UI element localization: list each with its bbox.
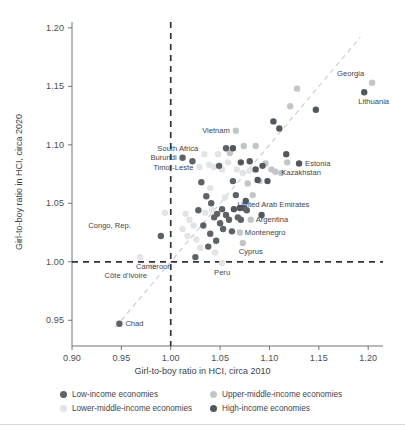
x-tick-label: 1.20 (348, 353, 388, 363)
legend-item[interactable]: Upper-middle-income economies (210, 390, 360, 399)
data-point[interactable] (223, 145, 229, 151)
x-axis-title: Girl-to-boy ratio in HCI, circa 2010 (0, 366, 405, 376)
x-tick-label: 1.15 (299, 353, 339, 363)
point-label: Chad (125, 320, 143, 328)
data-point[interactable] (240, 170, 246, 176)
bottom-divider (0, 424, 405, 425)
data-point[interactable] (240, 240, 246, 246)
data-point[interactable] (231, 206, 237, 212)
data-point[interactable] (179, 226, 185, 232)
x-tick-label: 0.90 (52, 353, 92, 363)
data-point[interactable] (208, 200, 214, 206)
y-tick-label: 1.05 (32, 198, 64, 208)
data-point[interactable] (219, 206, 225, 212)
x-tick-label: 1.00 (151, 353, 191, 363)
point-label: Lithuania (358, 98, 389, 106)
data-point[interactable] (222, 194, 228, 200)
data-point[interactable] (192, 254, 198, 260)
data-point[interactable] (296, 160, 302, 166)
data-point[interactable] (247, 167, 253, 173)
data-point[interactable] (276, 125, 282, 131)
point-label: Georgia (337, 70, 364, 78)
point-label: Burundi (150, 154, 176, 162)
data-point[interactable] (162, 209, 168, 215)
data-point[interactable] (202, 209, 208, 215)
data-point[interactable] (195, 207, 201, 213)
data-point[interactable] (219, 260, 225, 266)
data-point[interactable] (234, 166, 240, 172)
data-point[interactable] (230, 178, 236, 184)
point-label: Argentina (256, 216, 289, 224)
data-point[interactable] (287, 103, 293, 109)
data-point[interactable] (196, 164, 202, 170)
series-0 (116, 145, 250, 327)
legend-swatch-icon (210, 391, 217, 398)
legend-swatch-icon (60, 405, 67, 412)
data-point[interactable] (226, 216, 232, 222)
point-label: Estonia (305, 160, 330, 168)
data-point[interactable] (233, 128, 239, 134)
data-point[interactable] (241, 143, 247, 149)
data-point[interactable] (361, 89, 367, 95)
legend-item[interactable]: Lower-middle-income economies (60, 404, 210, 413)
x-tick-label: 1.10 (249, 353, 289, 363)
data-point[interactable] (272, 169, 278, 175)
data-point[interactable] (205, 243, 211, 249)
data-point[interactable] (294, 85, 300, 91)
data-point[interactable] (249, 192, 255, 198)
data-point[interactable] (200, 222, 206, 228)
legend: Low-income economiesUpper-middle-income … (60, 390, 360, 413)
data-point[interactable] (198, 179, 204, 185)
data-point[interactable] (158, 233, 164, 239)
data-point[interactable] (238, 159, 244, 165)
legend-item[interactable]: Low-income economies (60, 390, 210, 399)
data-point[interactable] (213, 238, 219, 244)
data-point[interactable] (237, 229, 243, 235)
point-label: Cameroon (136, 263, 171, 271)
data-point[interactable] (283, 151, 289, 157)
data-point[interactable] (137, 254, 143, 260)
data-point[interactable] (230, 145, 236, 151)
data-point[interactable] (201, 151, 207, 157)
point-label: Côte d'Ivoire (105, 272, 147, 280)
data-point[interactable] (220, 226, 226, 232)
data-point[interactable] (193, 236, 199, 242)
data-point[interactable] (369, 80, 375, 86)
data-point[interactable] (245, 180, 251, 186)
series-3 (230, 89, 368, 218)
data-point[interactable] (190, 222, 196, 228)
point-label: Timor-Leste (153, 164, 193, 172)
data-point[interactable] (233, 192, 239, 198)
data-point[interactable] (217, 220, 223, 226)
data-point[interactable] (214, 211, 220, 217)
data-point[interactable] (186, 216, 192, 222)
data-point[interactable] (215, 151, 221, 157)
data-point[interactable] (212, 249, 218, 255)
data-point[interactable] (248, 216, 254, 222)
data-point[interactable] (252, 166, 258, 172)
data-point[interactable] (229, 228, 235, 234)
data-point[interactable] (216, 163, 222, 169)
data-point[interactable] (197, 245, 203, 251)
data-point[interactable] (313, 107, 319, 113)
data-point[interactable] (252, 143, 258, 149)
data-point[interactable] (264, 178, 270, 184)
data-point[interactable] (238, 216, 244, 222)
scatter-plot-figure: Girl-to-boy ratio in HCI, circa 2020 Gir… (0, 0, 405, 430)
data-point[interactable] (203, 193, 209, 199)
legend-item[interactable]: High-income economies (210, 404, 360, 413)
point-label: Montenegro (245, 229, 286, 237)
data-point[interactable] (259, 163, 265, 169)
point-label: South Africa (157, 145, 198, 153)
data-point[interactable] (207, 231, 213, 237)
data-point[interactable] (225, 159, 231, 165)
data-point[interactable] (179, 154, 185, 160)
data-point[interactable] (284, 159, 290, 165)
data-point[interactable] (254, 177, 260, 183)
data-point[interactable] (184, 233, 190, 239)
data-point[interactable] (270, 118, 276, 124)
data-point[interactable] (207, 185, 213, 191)
data-point[interactable] (247, 158, 253, 164)
data-point[interactable] (182, 211, 188, 217)
data-point[interactable] (116, 321, 122, 327)
